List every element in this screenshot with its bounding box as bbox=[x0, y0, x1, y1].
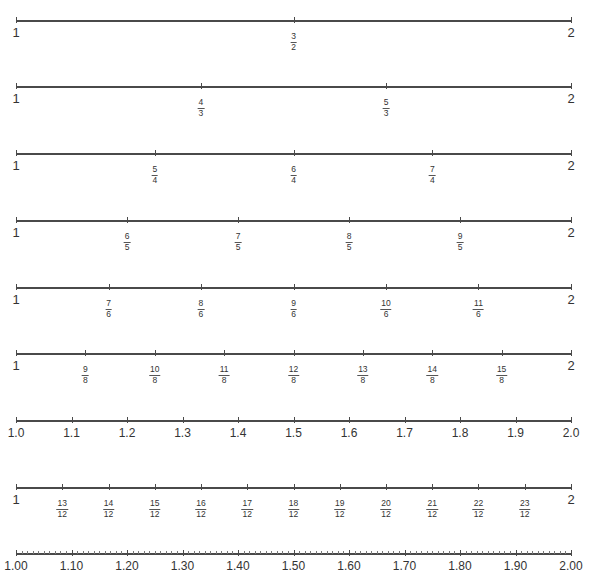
fraction: 2312 bbox=[519, 499, 530, 519]
fraction-label: 1912 bbox=[334, 492, 345, 519]
tick-mark bbox=[571, 484, 572, 490]
tick-mark bbox=[363, 350, 364, 356]
fraction: 138 bbox=[357, 365, 368, 385]
tick-mark bbox=[155, 350, 156, 356]
tick-label: 1.30 bbox=[171, 560, 194, 572]
minor-tick bbox=[560, 551, 561, 554]
minor-tick bbox=[543, 551, 544, 554]
minor-tick bbox=[510, 551, 511, 554]
fraction-label: 65 bbox=[124, 225, 131, 252]
fraction: 95 bbox=[457, 232, 464, 252]
minor-tick bbox=[549, 551, 550, 554]
fraction: 74 bbox=[429, 165, 436, 185]
tick-label: 1.60 bbox=[337, 560, 360, 572]
fraction: 1312 bbox=[56, 499, 67, 519]
minor-tick bbox=[343, 551, 344, 554]
tick-mark bbox=[201, 83, 202, 89]
tick-mark bbox=[516, 417, 517, 423]
tick-mark bbox=[294, 150, 295, 156]
minor-tick bbox=[216, 551, 217, 554]
tick-mark bbox=[571, 284, 572, 290]
fraction-label: 1712 bbox=[242, 492, 253, 519]
minor-tick bbox=[27, 551, 28, 554]
tick-label: 1.9 bbox=[507, 427, 524, 439]
tick-mark bbox=[571, 417, 572, 423]
denominator: 6 bbox=[291, 310, 296, 319]
minor-tick bbox=[527, 551, 528, 554]
minor-tick bbox=[321, 551, 322, 554]
minor-tick bbox=[232, 551, 233, 554]
endpoint-label-end: 2 bbox=[567, 159, 574, 172]
denominator: 6 bbox=[384, 310, 389, 319]
fraction: 32 bbox=[290, 32, 297, 52]
tick-label: 1.50 bbox=[282, 560, 305, 572]
endpoint-label-start: 1 bbox=[12, 26, 19, 39]
minor-tick bbox=[282, 551, 283, 554]
endpoint-label-end: 2 bbox=[567, 293, 574, 306]
tick-label: 1.20 bbox=[115, 560, 138, 572]
minor-tick bbox=[177, 551, 178, 554]
fraction-label: 86 bbox=[198, 292, 205, 319]
minor-tick bbox=[210, 551, 211, 554]
minor-tick bbox=[55, 551, 56, 554]
fraction-label: 2012 bbox=[380, 492, 391, 519]
minor-tick bbox=[149, 551, 150, 554]
fraction: 75 bbox=[235, 232, 242, 252]
fraction-label: 53 bbox=[383, 91, 390, 118]
number-line-twelfths: 1213121412151216121712181219122012211222… bbox=[16, 487, 571, 527]
tick-mark bbox=[516, 550, 517, 556]
axis-line bbox=[16, 86, 571, 88]
fraction: 53 bbox=[383, 98, 390, 118]
minor-tick bbox=[466, 551, 467, 554]
endpoint-label-start: 1 bbox=[12, 493, 19, 506]
tick-mark bbox=[16, 417, 17, 423]
denominator: 8 bbox=[499, 376, 504, 385]
fraction: 85 bbox=[346, 232, 353, 252]
fraction-label: 128 bbox=[288, 358, 299, 385]
minor-tick bbox=[94, 551, 95, 554]
minor-tick bbox=[110, 551, 111, 554]
fraction-label: 2212 bbox=[473, 492, 484, 519]
fraction: 1512 bbox=[149, 499, 160, 519]
tick-mark bbox=[386, 484, 387, 490]
minor-tick bbox=[538, 551, 539, 554]
minor-tick bbox=[155, 551, 156, 554]
tick-mark bbox=[183, 417, 184, 423]
fraction-label: 76 bbox=[105, 292, 112, 319]
fraction-label: 2112 bbox=[427, 492, 438, 519]
minor-tick bbox=[554, 551, 555, 554]
tick-label: 2.00 bbox=[559, 560, 582, 572]
minor-tick bbox=[144, 551, 145, 554]
minor-tick bbox=[499, 551, 500, 554]
minor-tick bbox=[377, 551, 378, 554]
endpoint-label-end: 2 bbox=[567, 92, 574, 105]
tick-mark bbox=[238, 550, 239, 556]
denominator: 12 bbox=[196, 510, 205, 519]
tick-label: 1.70 bbox=[393, 560, 416, 572]
fraction: 96 bbox=[290, 299, 297, 319]
minor-tick bbox=[255, 551, 256, 554]
minor-tick bbox=[83, 551, 84, 554]
denominator: 2 bbox=[291, 43, 296, 52]
minor-tick bbox=[305, 551, 306, 554]
minor-tick bbox=[427, 551, 428, 554]
minor-tick bbox=[194, 551, 195, 554]
tick-mark bbox=[460, 217, 461, 223]
tick-mark bbox=[432, 150, 433, 156]
denominator: 12 bbox=[335, 510, 344, 519]
minor-tick bbox=[388, 551, 389, 554]
minor-tick bbox=[371, 551, 372, 554]
tick-mark bbox=[62, 484, 63, 490]
tick-mark bbox=[405, 550, 406, 556]
denominator: 12 bbox=[104, 510, 113, 519]
minor-tick bbox=[299, 551, 300, 554]
tick-label: 1.4 bbox=[230, 427, 247, 439]
denominator: 5 bbox=[125, 243, 130, 252]
denominator: 12 bbox=[150, 510, 159, 519]
minor-tick bbox=[227, 551, 228, 554]
minor-tick bbox=[260, 551, 261, 554]
denominator: 8 bbox=[430, 376, 435, 385]
tick-mark bbox=[571, 150, 572, 156]
tick-label: 1.8 bbox=[452, 427, 469, 439]
minor-tick bbox=[99, 551, 100, 554]
